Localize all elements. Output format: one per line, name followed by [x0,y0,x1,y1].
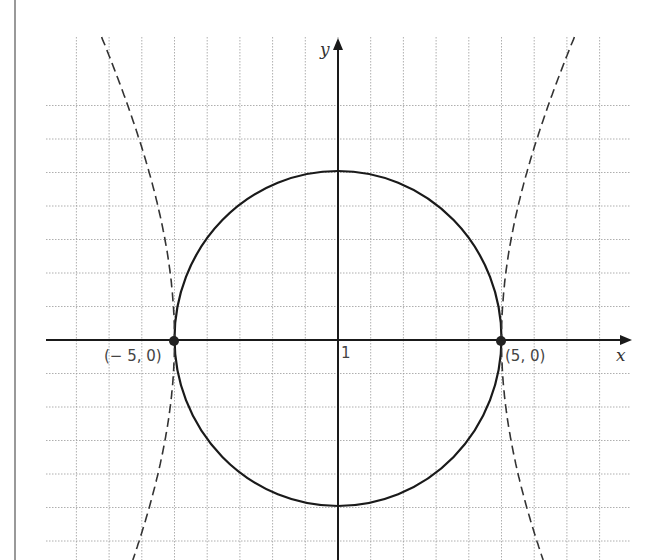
point-neg5-0 [169,336,179,346]
x-axis-label: x [616,345,626,365]
y-axis-arrow-icon [333,38,343,50]
graph-figure: x y 1 (− 5, 0) (5, 0) [0,0,664,560]
x-axis-arrow-icon [620,335,632,345]
hyperbola-left-branch [102,37,175,560]
point-label-5-0: (5, 0) [505,347,545,365]
hyperbola-right-branch [502,37,575,560]
point-label-neg5-0: (− 5, 0) [104,347,162,365]
unit-tick-label: 1 [341,344,351,362]
point-5-0 [496,336,506,346]
y-axis-label: y [319,39,330,59]
